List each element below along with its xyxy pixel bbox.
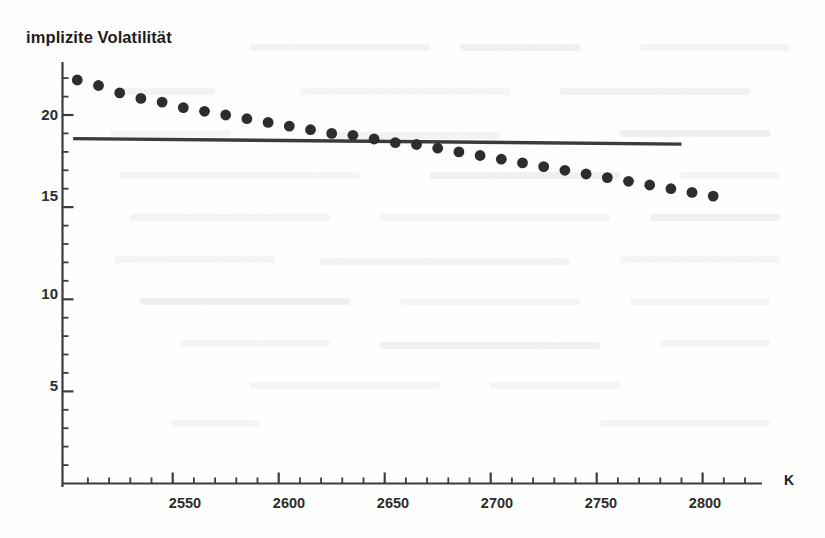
x-axis-ticks [88, 473, 745, 484]
data-point [581, 169, 592, 180]
data-point [326, 128, 337, 139]
data-point [178, 102, 189, 113]
data-point [390, 137, 401, 148]
data-point [93, 80, 104, 91]
data-point [560, 165, 571, 176]
data-point [199, 106, 210, 117]
data-point [242, 113, 253, 124]
data-point [475, 150, 486, 161]
data-point [305, 124, 316, 135]
data-point [220, 110, 231, 121]
data-point [687, 187, 698, 198]
data-point [602, 172, 613, 183]
plot-area [0, 0, 825, 538]
data-point [454, 147, 465, 158]
data-point [644, 180, 655, 191]
data-point [72, 75, 83, 86]
y-axis-ticks [63, 78, 74, 465]
data-point [666, 183, 677, 194]
data-point [263, 117, 274, 128]
data-point [136, 93, 147, 104]
data-point [284, 121, 295, 132]
axes [63, 62, 763, 487]
data-point [114, 88, 125, 99]
data-point [708, 191, 719, 202]
data-point [348, 130, 359, 141]
data-point [517, 158, 528, 169]
data-point [623, 176, 634, 187]
data-point [538, 161, 549, 172]
data-point [157, 97, 168, 108]
data-point [496, 154, 507, 165]
implied-volatility-chart: implizite Volatilität K 20 15 10 5 2550 … [0, 0, 825, 538]
data-point [369, 134, 380, 145]
data-point [432, 143, 443, 154]
data-point [411, 139, 422, 150]
